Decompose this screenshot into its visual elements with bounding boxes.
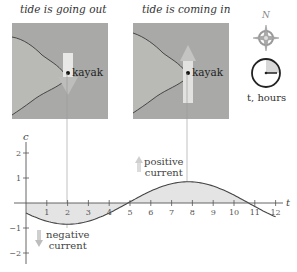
positive-arrow-icon xyxy=(135,156,143,163)
x-tick-label: 5 xyxy=(127,208,132,217)
x-tick-label: 1 xyxy=(44,208,49,217)
positive-label-line1: positive xyxy=(144,156,184,167)
negative-current-label: negative current xyxy=(46,229,90,251)
x-tick-label: 6 xyxy=(148,208,153,217)
x-axis-label: t xyxy=(286,197,291,208)
y-tick-label: −1 xyxy=(9,224,21,233)
positive-current-label: positive current xyxy=(144,156,184,178)
x-tick-label: 12 xyxy=(271,208,281,217)
x-tick-label: 9 xyxy=(211,208,216,217)
y-tick-label: −2 xyxy=(9,249,21,258)
y-tick-label: 2 xyxy=(16,149,21,158)
current-chart: 123456789101112 21−1−2 t c xyxy=(0,0,297,272)
negative-arrow-icon xyxy=(35,240,43,247)
x-tick-label: 10 xyxy=(229,208,239,217)
positive-label-line2: current xyxy=(144,167,184,178)
x-tick-label: 2 xyxy=(65,208,70,217)
x-tick-label: 8 xyxy=(190,208,195,217)
x-tick-label: 11 xyxy=(250,208,260,217)
x-tick-label: 7 xyxy=(169,208,174,217)
negative-label-line1: negative xyxy=(46,229,90,240)
x-tick-label: 4 xyxy=(107,208,112,217)
x-tick-label: 3 xyxy=(86,208,91,217)
y-axis-label: c xyxy=(23,131,29,142)
negative-label-line2: current xyxy=(46,240,90,251)
y-tick-label: 1 xyxy=(16,174,21,183)
